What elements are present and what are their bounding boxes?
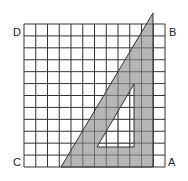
corner-label-c: C xyxy=(13,157,21,168)
corner-label-b: B xyxy=(169,27,176,38)
corner-label-d: D xyxy=(13,27,21,38)
grid-diagram xyxy=(0,0,188,181)
corner-label-a: A xyxy=(168,157,175,168)
